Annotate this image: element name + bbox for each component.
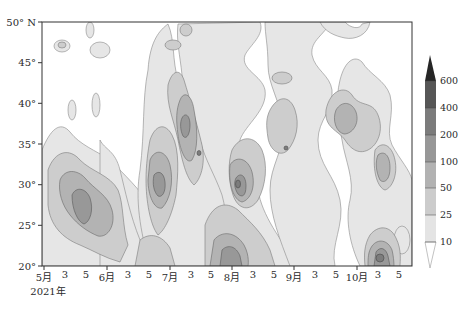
- y-axis: 20° 25° 30° 35° 40° 45° 50° N: [6, 17, 42, 272]
- x-tick-label: 3: [375, 269, 381, 280]
- x-tick-label: 8月: [224, 272, 240, 283]
- x-tick-label: 3: [188, 269, 194, 280]
- x-tick-sublabel: 2021年: [30, 285, 65, 297]
- colorbar-label: 10: [440, 236, 452, 247]
- colorbar-label: 600: [440, 75, 458, 86]
- y-tick-label: 45°: [18, 57, 36, 68]
- x-tick-label: 9月: [286, 272, 302, 283]
- y-tick-label: 35°: [18, 139, 36, 150]
- colorbar-label: 200: [440, 129, 458, 140]
- y-tick-label: 30°: [18, 179, 36, 190]
- x-tick-label: 5: [83, 269, 89, 280]
- colorbar-label: 50: [440, 182, 452, 193]
- hovmoller-contour-chart: 20° 25° 30° 35° 40° 45° 50° N 5月 2021年 3…: [0, 0, 461, 311]
- x-tick-label: 3: [62, 269, 68, 280]
- y-tick-label: 20°: [18, 261, 36, 272]
- y-tick-label: 40°: [18, 98, 36, 109]
- x-tick-label: 5: [271, 269, 277, 280]
- x-tick-label: 5月: [36, 272, 52, 283]
- colorbar-extend-bottom: [425, 242, 436, 268]
- colorbar: 600 400 200 100 50 25 10: [425, 55, 458, 268]
- x-tick-label: 3: [125, 269, 131, 280]
- plot-area: [42, 22, 412, 266]
- colorbar-label: 400: [440, 102, 458, 113]
- y-tick-label: 50° N: [6, 17, 36, 28]
- colorbar-label: 100: [440, 156, 458, 167]
- x-tick-label: 5: [396, 269, 402, 280]
- x-tick-label: 3: [250, 269, 256, 280]
- x-tick-label: 5: [146, 269, 152, 280]
- x-axis: 5月 2021年 3 5 6月 3 5 7月 3 5 8月 3 5 9月 3 5…: [30, 266, 402, 297]
- y-tick-label: 25°: [18, 220, 36, 231]
- x-tick-label: 7月: [162, 272, 178, 283]
- colorbar-extend-top: [425, 55, 436, 81]
- x-tick-label: 6月: [99, 272, 115, 283]
- x-tick-label: 3: [312, 269, 318, 280]
- x-tick-label: 5: [333, 269, 339, 280]
- x-tick-label: 5: [208, 269, 214, 280]
- colorbar-label: 25: [440, 209, 452, 220]
- x-tick-label: 10月: [346, 272, 369, 283]
